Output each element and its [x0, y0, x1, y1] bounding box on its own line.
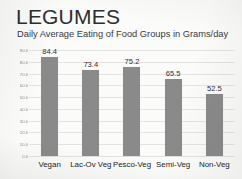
y-axis-tick-label: 50.0	[8, 95, 28, 100]
y-axis-tick-label: 20.0	[8, 130, 28, 135]
bar-value-label: 75.2	[125, 57, 140, 66]
bar-group: 73.4	[70, 50, 111, 156]
y-axis-tick-label: 60.0	[8, 83, 28, 88]
bar-value-label: 52.5	[207, 84, 222, 93]
x-axis: VeganLac-Ov VegPesco-VegSemi-VegNon-Veg	[29, 160, 235, 170]
bar-group: 84.4	[29, 50, 70, 156]
slide: LEGUMES Daily Average Eating of Food Gro…	[0, 0, 242, 179]
bar-value-label: 65.5	[166, 69, 181, 78]
chart-subtitle: Daily Average Eating of Food Groups in G…	[17, 29, 228, 40]
y-axis-tick-label: 10.0	[8, 142, 28, 147]
chart-plot-area: 90.080.070.060.050.040.030.020.010.00.0 …	[0, 48, 242, 179]
bar	[82, 70, 99, 156]
gridline	[29, 156, 235, 157]
x-axis-tick-label: Non-Veg	[194, 160, 235, 170]
y-axis-tick-label: 80.0	[8, 59, 28, 64]
x-axis-tick-label: Vegan	[29, 160, 70, 170]
y-axis: 90.080.070.060.050.040.030.020.010.00.0	[8, 50, 28, 156]
bar	[41, 57, 58, 156]
bar-group: 52.5	[194, 50, 235, 156]
bar-series: 84.473.475.265.552.5	[29, 50, 235, 156]
y-axis-tick-label: 70.0	[8, 71, 28, 76]
y-axis-tick-label: 0.0	[8, 154, 28, 159]
y-axis-tick-label: 90.0	[8, 48, 28, 53]
x-axis-tick-label: Semi-Veg	[153, 160, 194, 170]
y-axis-tick-label: 40.0	[8, 106, 28, 111]
page-title: LEGUMES	[16, 5, 120, 28]
x-axis-tick-label: Lac-Ov Veg	[70, 160, 111, 170]
bar-group: 65.5	[153, 50, 194, 156]
x-axis-tick-label: Pesco-Veg	[111, 160, 152, 170]
bar	[123, 67, 140, 156]
bar	[165, 79, 182, 156]
bar	[206, 94, 223, 156]
bar-value-label: 73.4	[83, 60, 98, 69]
y-axis-tick-label: 30.0	[8, 118, 28, 123]
bar-group: 75.2	[111, 50, 152, 156]
bar-value-label: 84.4	[42, 47, 57, 56]
